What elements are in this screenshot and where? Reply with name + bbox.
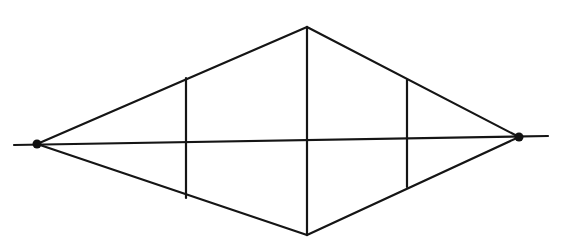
right-upper-edge xyxy=(307,27,519,137)
horizon-line xyxy=(14,136,548,145)
right-lower-edge xyxy=(307,137,519,235)
right-vanishing-point xyxy=(515,133,524,142)
left-vanishing-point xyxy=(33,140,42,149)
perspective-diagram xyxy=(0,0,561,247)
left-lower-edge xyxy=(37,144,307,235)
left-upper-edge xyxy=(37,27,307,144)
